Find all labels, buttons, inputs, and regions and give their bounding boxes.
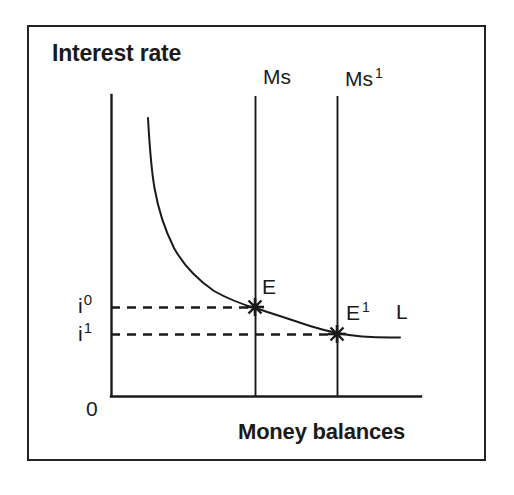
x-axis-title: Money balances — [238, 421, 405, 443]
equilibrium-marker-e — [246, 298, 264, 316]
origin-label: 0 — [86, 398, 98, 419]
rate-label-i1: i1 — [78, 320, 92, 344]
ms-label-base: Ms — [263, 65, 291, 88]
eq-label-e1-superscript: 1 — [362, 299, 370, 315]
ms1-label-superscript: 1 — [375, 65, 383, 81]
eq-label-e-base: E — [262, 275, 276, 298]
equilibrium-label-e: E — [262, 276, 276, 297]
rate-label-i0-superscript: 0 — [84, 291, 92, 308]
equilibrium-label-e1: E1 — [346, 300, 370, 323]
money-supply-label-ms: Ms — [263, 66, 291, 87]
equilibrium-marker-e1 — [328, 325, 346, 343]
rate-label-i1-superscript: 1 — [84, 319, 92, 336]
rate-label-i0-base: i — [78, 294, 83, 317]
money-supply-label-ms1: Ms1 — [345, 66, 383, 89]
curve-label-l: L — [396, 301, 408, 322]
rate-label-i1-base: i — [78, 322, 83, 345]
eq-label-e1-base: E — [346, 301, 360, 324]
ms1-label-base: Ms — [345, 67, 373, 90]
figure-root: Interest rate Money balances 0 Ms Ms1 i0… — [0, 0, 514, 495]
y-axis-title: Interest rate — [52, 42, 181, 65]
rate-label-i0: i0 — [78, 292, 92, 316]
